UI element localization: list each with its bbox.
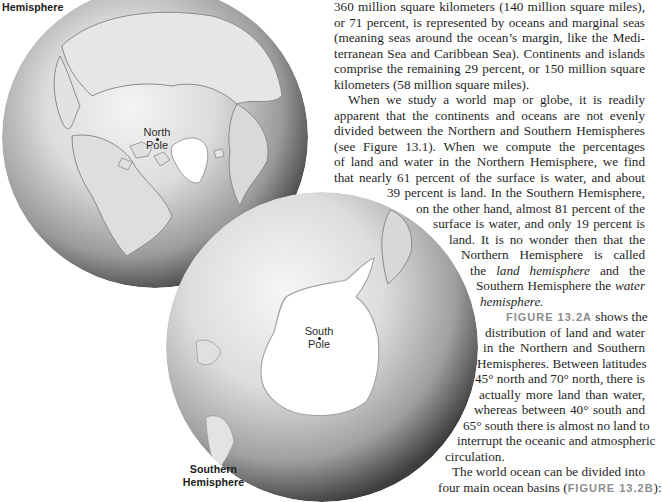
text-line: 39 percent is land. In the Southern Hemi… <box>387 185 645 200</box>
text-line: kilometers (58 million square miles). <box>334 77 645 92</box>
text-line: of land and water in the Northern Hemisp… <box>334 154 645 169</box>
south-pole-label: South Pole <box>302 325 336 351</box>
text-segment: shows the <box>595 309 647 324</box>
emphasis-water: water <box>615 278 645 293</box>
emphasis-land-hemisphere: land hemisphere <box>496 263 590 278</box>
text-line: whereas between 40° south and <box>474 402 645 417</box>
text-segment: the <box>470 263 486 278</box>
north-pole-label: North Pole <box>140 126 174 152</box>
northern-hemisphere-label: Hemisphere <box>2 1 63 14</box>
text-line: surface is water, and only 19 percent is <box>433 216 645 231</box>
figure-reference-13-2a[interactable]: FIGURE 13.2A <box>506 311 592 323</box>
text-segment: Southern Hemisphere the <box>476 278 611 293</box>
text-line: comprise the remaining 29 percent, or 15… <box>334 61 645 76</box>
text-line: that nearly 61 percent of the surface is… <box>334 170 645 185</box>
text-line: divided between the Northern and Souther… <box>334 123 645 138</box>
figure-reference-13-2b[interactable]: FIGURE 13.2B <box>568 482 654 494</box>
text-line: 65° south there is almost no land to <box>463 418 645 433</box>
text-segment: and the <box>600 263 645 278</box>
text-line: hemisphere. <box>480 294 645 309</box>
southern-hemisphere-label: Southern Hemisphere <box>183 463 244 488</box>
text-line: Hemispheres. Between latitudes <box>477 356 645 371</box>
southern-hemisphere-label-line2: Hemisphere <box>183 476 244 489</box>
text-line: The world ocean can be divided into <box>452 464 645 479</box>
text-line: (see Figure 13.1). When we compute the p… <box>334 139 645 154</box>
north-pole-marker-icon <box>156 138 159 141</box>
text-line: on the other hand, almost 81 percent of … <box>416 201 645 216</box>
text-line: four main ocean basins (FIGURE 13.2B): <box>438 480 645 495</box>
text-line: the land hemisphere and the <box>470 263 645 278</box>
text-line: or 71 percent, is represented by oceans … <box>334 15 645 30</box>
text-line: distribution of land and water <box>485 325 645 340</box>
text-line: 45° north and 70° north, there is <box>475 371 645 386</box>
text-line: Northern Hemisphere is called <box>461 247 645 262</box>
text-segment: ): <box>654 480 662 495</box>
text-line: Southern Hemisphere the water <box>476 278 645 293</box>
southern-hemisphere-label-line1: Southern <box>183 463 244 476</box>
text-line: 360 million square kilometers (140 milli… <box>334 0 645 14</box>
text-line: (meaning seas around the ocean’s margin,… <box>334 30 645 45</box>
text-line: circulation. <box>445 449 645 464</box>
emphasis-hemisphere: hemisphere. <box>480 294 544 309</box>
text-line: land. It is no wonder then that the <box>449 232 645 247</box>
text-line: terranean Sea and Caribbean Sea). Contin… <box>334 46 645 61</box>
text-line: actually more land than water, <box>479 387 645 402</box>
text-line: interrupt the oceanic and atmospheric <box>457 433 645 448</box>
text-line: in the Northern and Southern <box>483 340 645 355</box>
text-line: FIGURE 13.2A shows the <box>506 309 645 324</box>
text-line: When we study a world map or globe, it i… <box>348 92 645 107</box>
text-segment: four main ocean basins ( <box>438 480 568 495</box>
south-pole-marker-icon <box>318 337 321 340</box>
text-line: apparent that the continents and oceans … <box>334 108 645 123</box>
